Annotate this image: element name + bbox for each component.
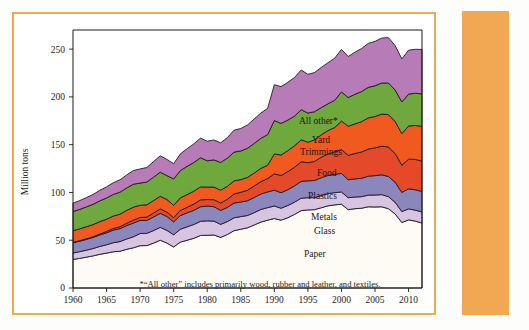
chart-figure: 050100150200250 196019651970197519801985…: [12, 12, 436, 315]
chart-series-areas: [73, 38, 422, 288]
x-tick-label: 1960: [64, 295, 83, 305]
x-tick-label: 1965: [97, 295, 116, 305]
y-tick-label: 250: [51, 45, 66, 55]
series-label-yard-trimmings-line1: Yard: [312, 135, 330, 145]
series-label-yard-trimmings-line2: Trimmings: [300, 147, 342, 157]
y-tick-label: 50: [56, 236, 66, 246]
series-label-glass: Glass: [314, 226, 335, 236]
page-background: 050100150200250 196019651970197519801985…: [0, 0, 529, 330]
y-tick-label: 150: [51, 140, 66, 150]
series-label-all-other: All other*: [299, 116, 338, 126]
x-axis-tick-labels: 1960196519701975198019851990199520002005…: [64, 295, 419, 305]
x-tick-label: 1970: [131, 295, 150, 305]
x-tick-label: 2000: [332, 295, 351, 305]
y-tick-label: 0: [60, 283, 65, 293]
stacked-area-chart[interactable]: 050100150200250 196019651970197519801985…: [12, 12, 436, 315]
x-tick-label: 1990: [265, 295, 284, 305]
y-axis-title: Million tons: [20, 148, 30, 195]
x-tick-label: 2010: [399, 295, 418, 305]
x-tick-label: 1980: [198, 295, 217, 305]
series-label-plastics: Plastics: [308, 191, 337, 201]
series-label-paper: Paper: [304, 249, 326, 259]
x-tick-label: 2005: [366, 295, 385, 305]
y-tick-label: 100: [51, 188, 66, 198]
y-axis-tick-labels: 050100150200250: [51, 45, 66, 294]
x-tick-label: 1975: [164, 295, 183, 305]
x-tick-label: 1985: [231, 295, 250, 305]
right-orange-sidebar: [462, 11, 509, 315]
y-tick-label: 200: [51, 92, 66, 102]
series-label-metals: Metals: [311, 212, 337, 222]
chart-footnote: *“All other” includes primarily wood, ru…: [139, 279, 380, 289]
series-label-food: Food: [317, 168, 337, 178]
x-tick-label: 1995: [298, 295, 317, 305]
